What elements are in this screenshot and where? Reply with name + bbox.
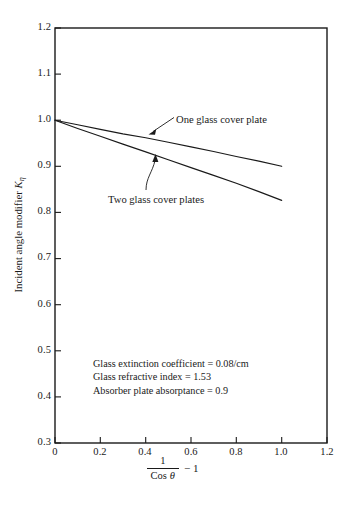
y-tick-label-1-2: 1.2 <box>26 21 51 32</box>
plot-canvas <box>0 0 345 505</box>
x-axis-title: 1 Cosθ − 1 <box>0 455 345 482</box>
y-axis-title-text: Incident angle modifier <box>12 188 24 292</box>
leader-two-glass-cover-plates <box>146 154 158 190</box>
y-tick-label-1-0: 1.0 <box>26 113 51 124</box>
curve-label-one-glass-cover-plate: One glass cover plate <box>176 114 267 125</box>
leader-one-glass-cover-plate <box>149 118 175 135</box>
y-axis-title-subscript: η <box>17 177 26 181</box>
fraction-denominator: Cosθ <box>147 470 180 482</box>
fraction-denominator-cos: Cos <box>151 470 167 481</box>
y-tick-label-0-5: 0.5 <box>26 344 51 355</box>
note-refractive-index: Glass refractive index = 1.53 <box>93 370 249 383</box>
x-axis-title-tail: − 1 <box>184 462 198 474</box>
y-axis-title-symbol: K <box>12 181 24 188</box>
y-tick-label-0-9: 0.9 <box>26 159 51 170</box>
fraction-bar <box>147 468 180 469</box>
y-axis-title: Incident angle modifier Kη <box>12 140 26 330</box>
curve-two-glass-cover-plates <box>55 120 282 200</box>
note-extinction-coefficient: Glass extinction coefficient = 0.08/cm <box>93 357 249 370</box>
y-tick-label-0-8: 0.8 <box>26 205 51 216</box>
y-tick-label-1-1: 1.1 <box>26 67 51 78</box>
x-axis-title-fraction: 1 Cosθ <box>147 455 180 482</box>
y-tick-label-0-6: 0.6 <box>26 298 51 309</box>
y-tick-label-0-7: 0.7 <box>26 251 51 262</box>
note-absorptance: Absorber plate absorptance = 0.9 <box>93 384 249 397</box>
fraction-denominator-theta: θ <box>170 470 175 481</box>
y-axis-ticks <box>55 28 61 443</box>
parameter-notes: Glass extinction coefficient = 0.08/cm G… <box>93 357 249 397</box>
curve-label-two-glass-cover-plates: Two glass cover plates <box>108 194 204 205</box>
y-tick-label-0-4: 0.4 <box>26 390 51 401</box>
x-axis-ticks <box>55 437 327 443</box>
fraction-numerator: 1 <box>147 455 180 467</box>
chart-figure: 1.2 1.1 1.0 0.9 0.8 0.7 0.6 0.5 0.4 0.3 … <box>0 0 345 505</box>
